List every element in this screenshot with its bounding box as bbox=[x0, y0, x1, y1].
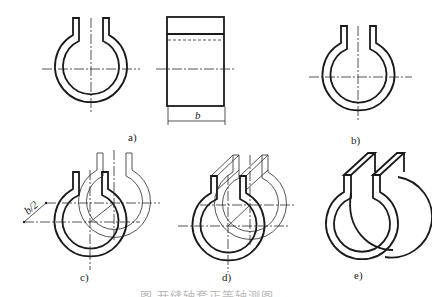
view-a-front bbox=[42, 18, 140, 114]
view-c-label: c) bbox=[80, 271, 89, 284]
view-b bbox=[309, 26, 412, 122]
view-c: b/2 bbox=[22, 150, 160, 270]
technical-drawing: b a) b) b/2 c) bbox=[0, 0, 432, 297]
dimension-b2-label: b/2 bbox=[22, 198, 41, 217]
figure-caption: 图 开缝轴套正等轴测图 bbox=[140, 290, 274, 297]
view-e bbox=[326, 153, 432, 259]
view-a-label: a) bbox=[128, 131, 137, 144]
view-b-label: b) bbox=[351, 134, 361, 147]
view-a-side: b bbox=[156, 17, 236, 125]
dimension-b-label: b bbox=[195, 109, 201, 121]
view-d bbox=[178, 155, 295, 272]
view-d-label: d) bbox=[222, 271, 232, 284]
view-e-label: e) bbox=[354, 269, 363, 282]
